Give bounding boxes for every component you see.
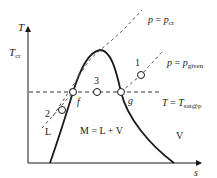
point-1-label: 1	[135, 57, 140, 68]
saturation-isotherm-label: T = Tsat@p	[162, 97, 202, 110]
critical-isobar-label: p = pcr	[147, 14, 175, 27]
point-2-label: 2	[45, 108, 50, 119]
mixture-region-label: M = L + V	[80, 125, 124, 136]
point-1	[138, 72, 145, 79]
point-f-label: f	[77, 96, 81, 107]
liquid-region-label: L	[45, 126, 51, 137]
t-s-diagram: T s Tcr p = pcr p = pgiven T = Tsat@p 1 …	[0, 0, 217, 178]
point-3-label: 3	[94, 75, 99, 86]
point-f	[70, 89, 77, 96]
given-isobar-line	[42, 52, 162, 128]
point-g	[118, 89, 125, 96]
t-critical-label: Tcr	[9, 46, 21, 60]
vapor-region-label: V	[176, 130, 184, 141]
point-g-label: g	[128, 95, 133, 106]
saturation-dome	[50, 50, 174, 163]
point-3	[94, 89, 101, 96]
x-axis-label: s	[194, 167, 198, 178]
y-axis-label: T	[18, 21, 25, 33]
point-2	[59, 107, 66, 114]
given-isobar-label: p = pgiven	[166, 57, 204, 70]
